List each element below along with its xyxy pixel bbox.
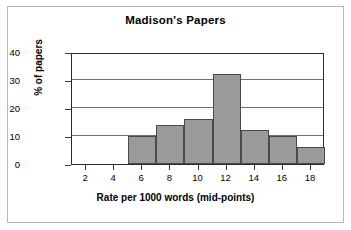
- x-tick-mark: [141, 165, 142, 170]
- x-tick-mark: [113, 165, 114, 170]
- x-tick-label: 16: [269, 172, 295, 183]
- plot-area: [71, 53, 324, 165]
- y-tick-label: 10: [0, 132, 20, 141]
- x-tick-label: 8: [156, 172, 182, 183]
- y-tick-label: 30: [0, 76, 20, 85]
- x-tick-label: 14: [241, 172, 267, 183]
- x-tick-label: 12: [213, 172, 239, 183]
- bar: [184, 119, 212, 164]
- bar: [156, 125, 184, 164]
- chart-title: Madison's Papers: [0, 14, 351, 26]
- bar: [128, 136, 156, 164]
- x-tick-mark: [254, 165, 255, 170]
- x-tick-mark: [169, 165, 170, 170]
- bar: [297, 147, 325, 164]
- x-tick-mark: [226, 165, 227, 170]
- y-tick-label: 20: [0, 104, 20, 113]
- x-axis-label: Rate per 1000 words (mid-points): [0, 192, 351, 203]
- x-tick-label: 18: [297, 172, 323, 183]
- x-tick-label: 6: [128, 172, 154, 183]
- y-tick-mark: [65, 165, 71, 166]
- chart-figure: Madison's Papers % of papers 010203040 2…: [0, 0, 351, 230]
- x-tick-label: 10: [185, 172, 211, 183]
- x-tick-mark: [310, 165, 311, 170]
- bar: [241, 130, 269, 164]
- y-tick-label: 40: [0, 48, 20, 57]
- gridline: [72, 79, 323, 80]
- bar: [269, 136, 297, 164]
- bar: [213, 74, 241, 164]
- x-tick-mark: [282, 165, 283, 170]
- y-axis-label: % of papers: [33, 8, 44, 128]
- x-tick-label: 2: [72, 172, 98, 183]
- x-tick-mark: [85, 165, 86, 170]
- gridline: [72, 107, 323, 108]
- y-tick-label: 0: [0, 160, 20, 169]
- x-tick-mark: [198, 165, 199, 170]
- x-tick-label: 4: [100, 172, 126, 183]
